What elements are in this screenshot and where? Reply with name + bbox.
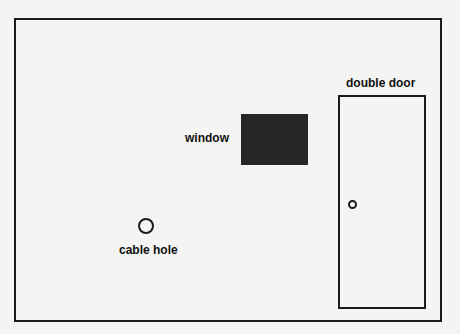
window-label: window — [185, 131, 229, 145]
double-door-label: double door — [346, 76, 415, 90]
window-shape — [241, 114, 308, 165]
cable-hole-label: cable hole — [119, 243, 178, 257]
door-knob-icon — [348, 200, 357, 209]
cable-hole-icon — [138, 218, 154, 234]
